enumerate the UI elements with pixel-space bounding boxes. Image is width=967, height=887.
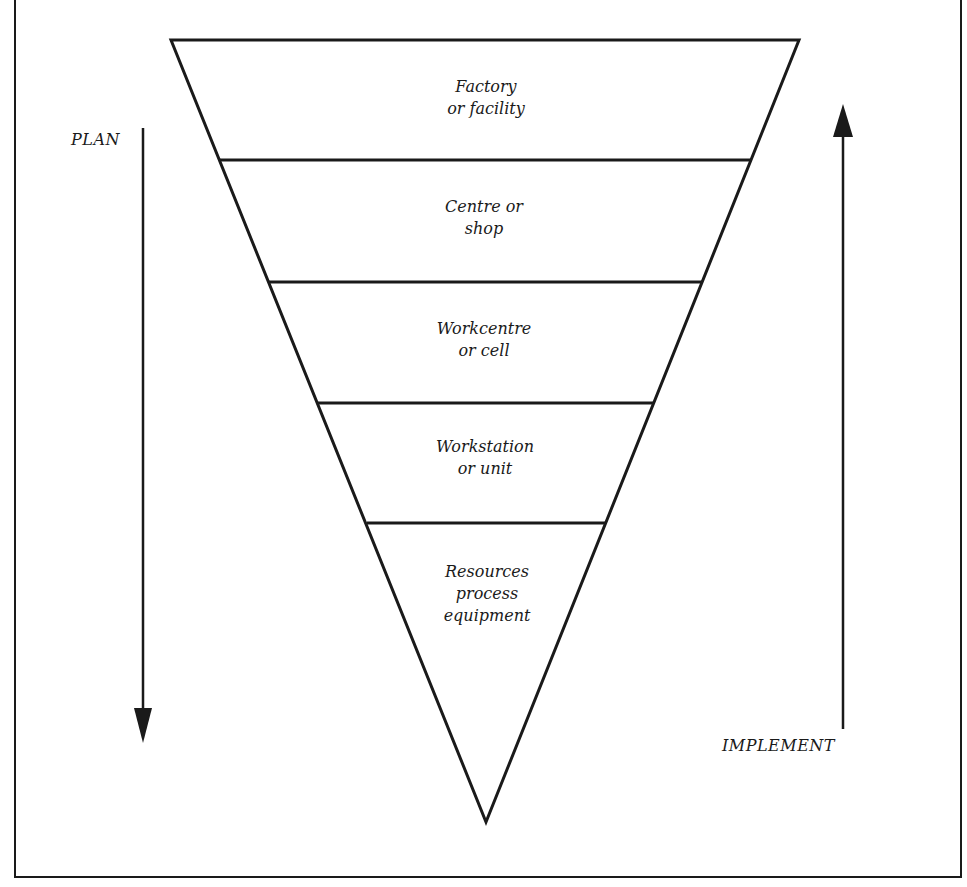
- level-label-resources: Resources process equipment: [444, 561, 531, 627]
- implement-label: IMPLEMENT: [722, 736, 835, 755]
- plan-arrow-icon: [134, 128, 152, 743]
- level-label-factory: Factory or facility: [447, 76, 525, 120]
- level-label-workcentre: Workcentre or cell: [437, 318, 532, 362]
- implement-arrow-icon: [833, 104, 853, 729]
- level-label-workstation: Workstation or unit: [436, 436, 534, 480]
- level-label-centre: Centre or shop: [445, 196, 523, 240]
- plan-label: PLAN: [71, 130, 120, 149]
- inverted-pyramid-outline: [171, 40, 799, 822]
- diagram-canvas: Factory or facility Centre or shop Workc…: [0, 0, 967, 887]
